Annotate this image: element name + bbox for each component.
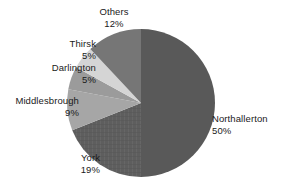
pie-label-others-value: 12% — [82, 18, 146, 30]
pie-label-york-name: York — [52, 152, 100, 164]
pie-label-northallerton-name: Northallerton — [212, 113, 284, 125]
pie-label-thirsk-name: Thirsk — [34, 38, 96, 50]
pie-label-darlington-name: Darlington — [6, 62, 96, 74]
pie-label-northallerton-value: 50% — [212, 125, 284, 137]
pie-slice-northallerton[interactable] — [141, 29, 215, 177]
pie-label-others: Others 12% — [82, 6, 146, 29]
pie-label-middlesbrough: Middlesbrough 9% — [0, 95, 79, 118]
pie-label-others-name: Others — [82, 6, 146, 18]
pie-label-york-value: 19% — [52, 164, 100, 176]
pie-label-middlesbrough-value: 9% — [0, 107, 79, 119]
pie-label-thirsk-value: 5% — [34, 50, 96, 62]
pie-label-york: York 19% — [52, 152, 100, 175]
pie-chart-figure: Others 12% Thirsk 5% Darlington 5% Middl… — [0, 0, 284, 190]
pie-label-thirsk: Thirsk 5% — [34, 38, 96, 61]
pie-label-middlesbrough-name: Middlesbrough — [0, 95, 79, 107]
pie-label-northallerton: Northallerton 50% — [212, 113, 284, 136]
pie-label-darlington-value: 5% — [6, 74, 96, 86]
pie-label-darlington: Darlington 5% — [6, 62, 96, 85]
